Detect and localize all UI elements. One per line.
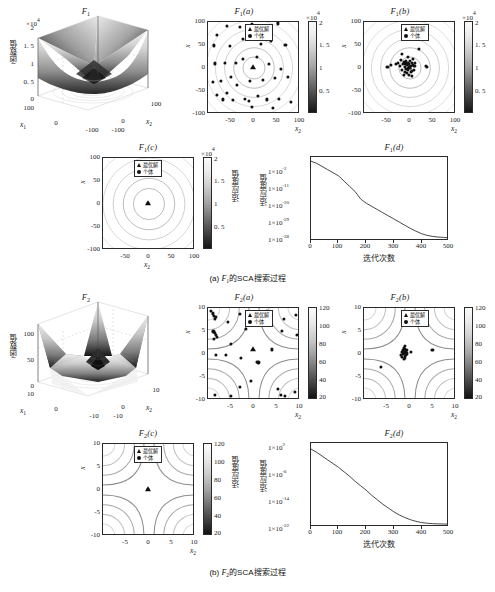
axis-label-x2-f2a: x2 bbox=[295, 410, 301, 420]
axis-label-x1: x1 bbox=[20, 120, 26, 130]
xtick-5-f2c: 5 bbox=[169, 538, 173, 546]
axis-label-x2-f2b: x2 bbox=[451, 410, 457, 420]
ztick-50-f2: 50 bbox=[14, 356, 34, 364]
cbtick-40-f2a: 40 bbox=[319, 376, 326, 384]
dot-icon bbox=[404, 320, 408, 324]
ytick-50-f1c: 50 bbox=[76, 176, 100, 184]
cbtick-2-f1a: 2 bbox=[319, 19, 323, 27]
panel-title-f2-c: F2(c) bbox=[62, 428, 234, 439]
xtick-5-f2a: 5 bbox=[274, 402, 278, 410]
ytick-neg5-f2b: -5 bbox=[335, 372, 361, 380]
ytick-f1d-0: 1×10-2 bbox=[268, 166, 287, 176]
cbtick-0p5-f1c: 0. 5 bbox=[214, 223, 225, 231]
cbtick-120-f2b: 120 bbox=[475, 304, 486, 312]
xtick-neg100: -100 bbox=[86, 126, 99, 134]
legend-label-individual: 个体 bbox=[143, 169, 153, 176]
legend-f1-c: 最优解 个体 bbox=[134, 160, 162, 177]
xtick-100-f1b: 100 bbox=[450, 116, 461, 124]
xtick-0-f2b: 0 bbox=[407, 402, 411, 410]
ytick-0-f2a: 0 bbox=[183, 349, 205, 357]
axis-label-iterations-f1d: 迭代次数 bbox=[363, 252, 395, 263]
panel-title-f2-b: F2(b) bbox=[325, 292, 475, 303]
cbtick-80-f2b: 80 bbox=[475, 340, 482, 348]
xtick-f1d-300: 300 bbox=[388, 242, 399, 250]
colorbar-label-f1c: 适应度值 bbox=[230, 170, 241, 202]
colorbar-f1-b bbox=[464, 21, 473, 113]
xtick-100-f1c: 100 bbox=[189, 252, 200, 260]
cbtick-1-f1b: 1 bbox=[475, 64, 479, 72]
ytick-neg10-f2c: -10 bbox=[74, 531, 100, 539]
legend-row-individual: 个体 bbox=[248, 319, 269, 326]
xtick-50-f1c: 50 bbox=[168, 252, 175, 260]
colorbar-f2-b bbox=[464, 307, 473, 399]
best-solution-marker-f1a bbox=[250, 64, 256, 69]
colorbar-f2-c bbox=[203, 443, 212, 535]
axis-label-x2: x2 bbox=[146, 117, 152, 127]
panel-f2-a: F2(a) x 10 5 0 -5 -10 -5 0 5 10 x2 bbox=[183, 290, 333, 418]
ytick-0-f2c: 0 bbox=[78, 485, 100, 493]
ztick-2: 2 bbox=[14, 24, 34, 32]
colorbar-label-f2c: 适应度值 bbox=[230, 456, 241, 488]
xtick-0-bottom: 0 bbox=[54, 119, 58, 127]
triangle-icon bbox=[248, 27, 252, 31]
cbtick-20-f2b: 20 bbox=[475, 393, 482, 401]
ytick-0: 0 bbox=[121, 117, 125, 125]
ytick-f2d-3: 1×10-22 bbox=[268, 523, 289, 533]
legend-label-individual: 个体 bbox=[254, 33, 264, 40]
xtick-50-f1b: 50 bbox=[429, 116, 436, 124]
cbtick-2-f1b: 2 bbox=[475, 19, 479, 27]
legend-label-individual: 个体 bbox=[143, 455, 153, 462]
xtick-0-f1c: 0 bbox=[146, 252, 150, 260]
xtick-f2d-500: 500 bbox=[443, 528, 454, 536]
ytick-10-f2c: 10 bbox=[78, 439, 100, 447]
ytick-f1d-4: 1×10-38 bbox=[268, 234, 289, 244]
legend-row-individual: 个体 bbox=[404, 33, 425, 40]
xtick-f1d-400: 400 bbox=[416, 242, 427, 250]
xtick-10-f2c: 10 bbox=[191, 538, 198, 546]
legend-row-individual: 个体 bbox=[248, 33, 269, 40]
ytick-50-f1a: 50 bbox=[181, 40, 205, 48]
cbtick-80-f2a: 80 bbox=[319, 340, 326, 348]
axis-label-x2-f2: x2 bbox=[146, 403, 152, 413]
xtick-0-f2c: 0 bbox=[146, 538, 150, 546]
ytick-neg10-f2b: -10 bbox=[335, 395, 361, 403]
cbtick-2-f1c: 2 bbox=[214, 155, 218, 163]
xtick-neg5-f2a: -5 bbox=[227, 402, 233, 410]
cbtick-80-f2c: 80 bbox=[214, 476, 221, 484]
ztick-0-f2: 0 bbox=[18, 382, 34, 390]
legend-f2-b: 最优解 个体 bbox=[401, 310, 429, 327]
plot-area-f1-d bbox=[310, 156, 448, 240]
colorbar-f1-a bbox=[308, 21, 317, 113]
cbtick-1p5-f1c: 1. 5 bbox=[214, 177, 225, 185]
cbtick-60-f2a: 60 bbox=[319, 358, 326, 366]
ytick-neg50-f1b: -50 bbox=[333, 86, 361, 94]
caption-row-a: (a) F1的SCA搜索过程 bbox=[0, 272, 495, 284]
xtick-neg5-f2c: -5 bbox=[122, 538, 128, 546]
cbtick-60-f2c: 60 bbox=[214, 494, 221, 502]
ytick-f1d-2: 1×10-20 bbox=[268, 200, 289, 210]
panel-title-f1-surface: F1 bbox=[6, 6, 166, 17]
panel-title-f2-d: F2(d) bbox=[278, 428, 495, 439]
legend-row-individual: 个体 bbox=[404, 319, 425, 326]
ytick-10-f2a: 10 bbox=[183, 303, 205, 311]
colorbar-f1-c bbox=[203, 157, 212, 249]
legend-label-individual: 个体 bbox=[410, 319, 420, 326]
xtick-10-left-f2: 10 bbox=[14, 390, 34, 398]
xtick-neg50-f1b: -50 bbox=[381, 116, 390, 124]
xtick-0-f2a: 0 bbox=[251, 402, 255, 410]
ytick-0-f1a: 0 bbox=[181, 63, 205, 71]
cbtick-120-f2c: 120 bbox=[214, 440, 225, 448]
ytick-f2d-1: 1×10-6 bbox=[268, 469, 287, 479]
ytick-neg100: -100 bbox=[112, 126, 125, 134]
panel-f1-surface: F1 ×104 函数值 2 1. 5 1 0. 5 0 100 x1 0 -10… bbox=[6, 4, 166, 132]
panel-title-f1-d: F1(d) bbox=[278, 142, 495, 153]
cbtick-60-f2b: 60 bbox=[475, 358, 482, 366]
xtick-f1d-100: 100 bbox=[332, 242, 343, 250]
cbtick-0p5-f1b: 0. 5 bbox=[475, 87, 486, 95]
ytick-100-f1a: 100 bbox=[181, 17, 205, 25]
panel-title-f1-a: F1(a) bbox=[169, 6, 319, 17]
ytick-neg50-f1c: -50 bbox=[72, 222, 100, 230]
ytick-f2d-0: 1×102 bbox=[268, 442, 285, 452]
xtick-f2d-400: 400 bbox=[416, 528, 427, 536]
panel-title-f2-a: F2(a) bbox=[169, 292, 319, 303]
